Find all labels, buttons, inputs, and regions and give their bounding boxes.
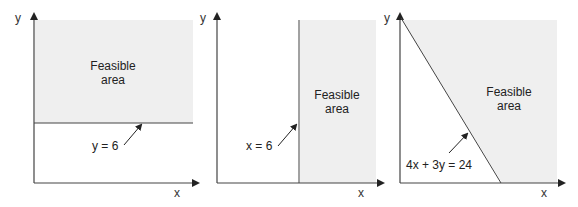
region-label-line2: area [497,99,521,113]
constraint-label: x = 6 [246,139,273,153]
x-axis-label: x [174,186,180,200]
region-label-line1: Feasible [90,59,136,73]
y-axis-label: y [200,11,206,25]
constraint-label: 4x + 3y = 24 [406,158,472,172]
x-axis-label: x [541,186,547,200]
y-axis-label: y [384,11,390,25]
pointer-arrow [278,125,296,146]
y-axis-label: y [15,11,21,25]
region-label-line1: Feasible [314,88,360,102]
constraint-label: y = 6 [92,139,119,153]
x-axis-label: x [358,186,364,200]
region-label-line2: area [325,102,349,116]
region-label-line1: Feasible [486,85,532,99]
panel-1: y x Feasible area y = 6 [15,11,198,200]
region-label-line2: area [101,73,125,87]
panel-3: y x Feasible area 4x + 3y = 24 [384,11,564,200]
pointer-arrow [124,125,141,145]
feasible-region-diagrams: y x Feasible area y = 6 y x Feasible are… [0,0,578,207]
pointer-arrow [449,134,467,153]
panel-2: y x Feasible area x = 6 [200,11,383,200]
